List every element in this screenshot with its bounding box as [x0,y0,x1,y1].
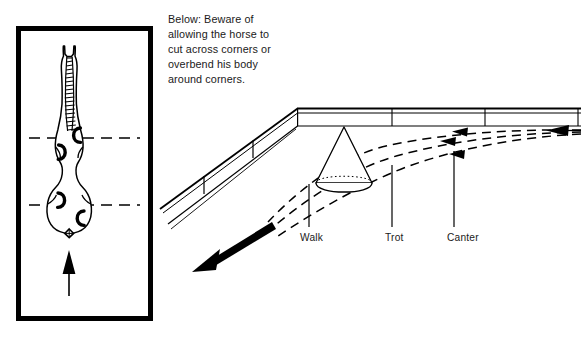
figure-caption: Below: Beware of allowing the horse to c… [168,12,298,87]
exit-arrow [192,222,276,272]
arena-corner-panel [160,96,581,276]
marker-cone [316,127,372,192]
figure-root: Below: Beware of allowing the horse to c… [0,0,581,341]
fence-far-run [297,109,581,127]
panel-frame [19,29,151,319]
gait-label-walk: Walk [300,232,323,243]
gait-label-canter: Canter [447,232,479,243]
horse-overhead-panel [16,26,153,321]
track-walk [268,130,581,222]
fence-near-run [160,109,298,230]
gait-label-trot: Trot [385,232,404,243]
